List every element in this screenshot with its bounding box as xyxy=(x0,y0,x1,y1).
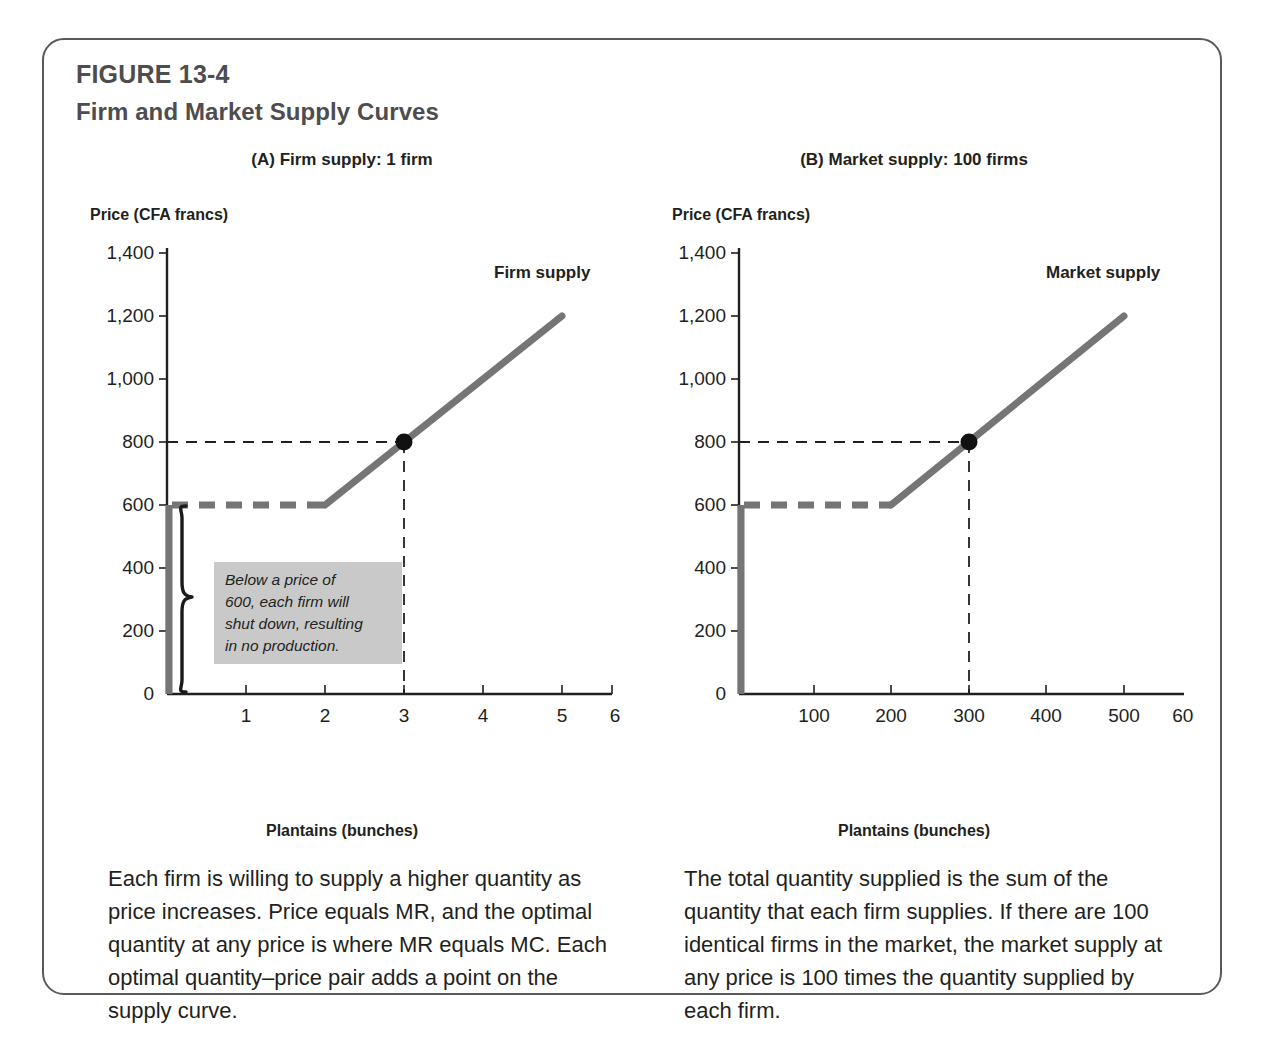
panel-a-point-marker xyxy=(396,434,413,451)
panel-a-x-ticks xyxy=(246,685,612,694)
figure-title: Firm and Market Supply Curves xyxy=(76,98,439,126)
panel-a-ytick-400: 400 xyxy=(122,557,154,578)
panel-b-heading: (B) Market supply: 100 firms xyxy=(634,150,1194,170)
panel-b-curve-label: Market supply xyxy=(1046,263,1161,282)
panel-a-svg: 1,400 1,200 1,000 800 600 400 200 0 xyxy=(62,240,622,810)
panel-a-ytick-1400: 1,400 xyxy=(106,242,154,263)
panel-b-xtick-200: 200 xyxy=(875,705,907,726)
panel-b-ytick-400: 400 xyxy=(694,557,726,578)
panel-b-xtick-300: 300 xyxy=(953,705,985,726)
panel-a-y-axis-title: Price (CFA francs) xyxy=(90,206,228,224)
panel-b-y-axis-title: Price (CFA francs) xyxy=(672,206,810,224)
panel-a-ytick-800: 800 xyxy=(122,431,154,452)
panel-b-xtick-400: 400 xyxy=(1030,705,1062,726)
panel-b-ytick-600: 600 xyxy=(694,494,726,515)
panel-b-xtick-500: 500 xyxy=(1108,705,1140,726)
panel-a-supply-curve xyxy=(325,316,562,505)
panel-b-ytick-200: 200 xyxy=(694,620,726,641)
panel-a-ytick-1000: 1,000 xyxy=(106,368,154,389)
figure-card: FIGURE 13-4 Firm and Market Supply Curve… xyxy=(42,38,1222,995)
panel-a-annotation-line2: 600, each firm will xyxy=(225,593,350,610)
panel-b-plot: 1,400 1,200 1,000 800 600 400 200 0 xyxy=(634,240,1194,800)
panel-a-heading: (A) Firm supply: 1 firm xyxy=(62,150,622,170)
panel-a-xtick-1: 1 xyxy=(241,705,252,726)
panel-a-annotation-line3: shut down, resulting xyxy=(225,615,363,632)
panel-firm-supply: (A) Firm supply: 1 firm Price (CFA franc… xyxy=(62,150,622,970)
panel-a-annotation-line1: Below a price of xyxy=(225,571,337,588)
panel-a-xtick-3: 3 xyxy=(399,705,410,726)
panel-a-xtick-4: 4 xyxy=(478,705,489,726)
panel-b-xtick-100: 100 xyxy=(798,705,830,726)
panel-a-plot: 1,400 1,200 1,000 800 600 400 200 0 xyxy=(62,240,622,800)
panel-a-ytick-1200: 1,200 xyxy=(106,305,154,326)
figure-number: FIGURE 13-4 xyxy=(76,60,230,89)
panel-b-point-marker xyxy=(961,434,978,451)
panel-a-shutdown-brace xyxy=(181,506,192,692)
panel-b-caption: The total quantity supplied is the sum o… xyxy=(684,862,1184,1027)
panel-a-xtick-2: 2 xyxy=(320,705,331,726)
panel-b-ytick-0: 0 xyxy=(715,683,726,704)
panel-b-x-ticks xyxy=(814,685,1194,694)
panel-a-xtick-5: 5 xyxy=(557,705,568,726)
panel-a-annotation-line4: in no production. xyxy=(225,637,340,654)
panel-a-x-axis-title: Plantains (bunches) xyxy=(62,822,622,840)
panel-b-ytick-800: 800 xyxy=(694,431,726,452)
panel-a-ytick-200: 200 xyxy=(122,620,154,641)
panel-a-curve-label: Firm supply xyxy=(494,263,591,282)
panel-b-xtick-600: 600 xyxy=(1172,705,1194,726)
panel-b-x-axis-title: Plantains (bunches) xyxy=(634,822,1194,840)
panel-a-ytick-600: 600 xyxy=(122,494,154,515)
panel-b-ytick-1000: 1,000 xyxy=(678,368,726,389)
panel-b-ytick-1400: 1,400 xyxy=(678,242,726,263)
panel-a-xtick-6: 6 xyxy=(610,705,621,726)
panel-b-supply-curve xyxy=(891,316,1124,505)
panel-a-caption: Each firm is willing to supply a higher … xyxy=(108,862,608,1027)
panel-market-supply: (B) Market supply: 100 firms Price (CFA … xyxy=(634,150,1194,970)
panel-b-svg: 1,400 1,200 1,000 800 600 400 200 0 xyxy=(634,240,1194,810)
panel-b-ytick-1200: 1,200 xyxy=(678,305,726,326)
panel-a-ytick-0: 0 xyxy=(143,683,154,704)
